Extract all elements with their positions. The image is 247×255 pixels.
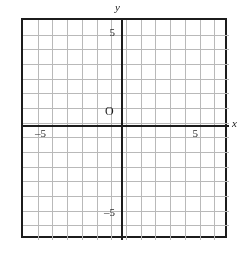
x-tick-label-negative-5: –5 [30,128,46,139]
x-axis-line [23,125,229,127]
origin-label: O [105,105,114,117]
y-axis-label: y [115,2,120,13]
coordinate-grid-figure: y x O 5 –5 5 –5 [0,0,247,255]
x-tick-label-positive-5: 5 [186,128,198,139]
x-axis-label: x [232,118,237,129]
grid-lines [23,20,229,240]
y-tick-label-negative-5: –5 [101,207,115,218]
y-axis-line [121,20,123,240]
y-tick-label-positive-5: 5 [103,27,115,38]
